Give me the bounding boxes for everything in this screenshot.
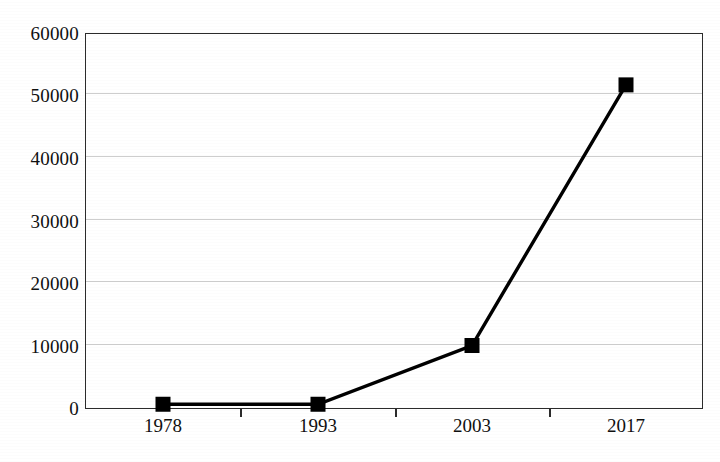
data-point-1993	[311, 397, 326, 412]
data-point-2003	[465, 338, 480, 353]
series-line	[163, 85, 626, 404]
data-point-2017	[619, 77, 634, 92]
data-series-layer	[0, 0, 720, 462]
chart-page: 60000 50000 40000 30000 20000 10000 0 19…	[0, 0, 720, 462]
series-markers	[156, 77, 634, 411]
data-point-1978	[156, 397, 171, 412]
